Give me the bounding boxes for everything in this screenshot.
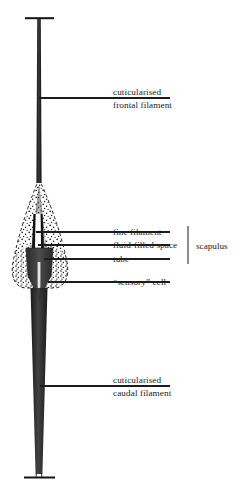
- label-fluid-filled-space: fluid-filled space: [113, 240, 177, 250]
- label-cuticularised-caudal-filament-line2: caudal filament: [113, 388, 172, 398]
- scapulus-bracket: scapulus: [188, 226, 228, 264]
- caudal-filament-cap-stem-left: [36, 473, 37, 477]
- sensory-filament-diagram: cuticularised frontal filament fine fila…: [0, 0, 244, 493]
- label-tube: tube: [113, 254, 129, 264]
- label-cuticularised-frontal-filament-line2: frontal filament: [113, 100, 172, 110]
- caudal-filament-cap: [24, 477, 55, 479]
- label-cuticularised-caudal-filament-line1: cuticularised: [113, 375, 162, 385]
- label-cuticularised-frontal-filament-line1: cuticularised: [113, 87, 162, 97]
- label-texts: cuticularised frontal filament fine fila…: [113, 87, 177, 398]
- label-scapulus: scapulus: [196, 241, 228, 251]
- label-fine-filament: fine filament: [113, 227, 162, 237]
- frontal-filament-cap: [25, 17, 54, 19]
- cuticularised-frontal-filament: [25, 17, 54, 183]
- label-sensory-cell: “sensory” cell: [113, 277, 167, 287]
- frontal-filament-shaft: [36, 19, 41, 183]
- caudal-filament-cap-stem-right: [41, 473, 42, 477]
- figure-root: cuticularised frontal filament fine fila…: [0, 0, 244, 493]
- cuticularised-caudal-filament: [24, 288, 55, 479]
- caudal-filament-shaft: [31, 288, 48, 474]
